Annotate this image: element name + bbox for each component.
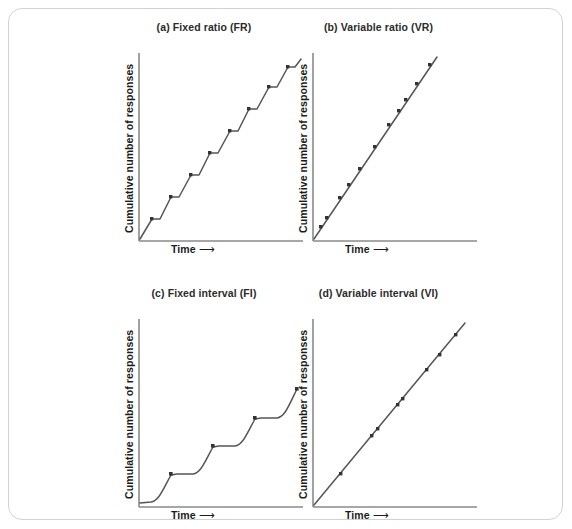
series-variable-interval: [314, 323, 465, 505]
reinforcement-markers-fixed-interval: [169, 387, 299, 476]
panel-variable-interval: (d) Variable interval (VI) Cumulative nu…: [281, 287, 476, 529]
x-axis-label-variable-interval: Time⟶: [345, 509, 388, 521]
x-axis-label-text: Time: [171, 243, 196, 255]
arrow-icon: ⟶: [199, 243, 214, 255]
chart-variable-interval: [305, 317, 480, 517]
panel-title-variable-interval: (d) Variable interval (VI): [281, 287, 476, 299]
arrow-icon: ⟶: [373, 243, 388, 255]
reinforcement-markers-variable-ratio: [319, 63, 431, 228]
panel-title-fixed-ratio: (a) Fixed ratio (FR): [109, 21, 299, 33]
x-axis-label-fixed-interval: Time⟶: [171, 509, 214, 521]
arrow-icon: ⟶: [199, 509, 214, 521]
x-axis-label-text: Time: [171, 509, 196, 521]
series-fixed-ratio: [140, 59, 301, 239]
arrow-icon: ⟶: [373, 509, 388, 521]
plot-area-variable-interval: [305, 317, 480, 517]
plot-area-fixed-interval: [131, 317, 306, 517]
panel-title-fixed-interval: (c) Fixed interval (FI): [109, 287, 299, 299]
chart-fixed-ratio: [131, 51, 306, 251]
chart-fixed-interval: [131, 317, 306, 517]
series-fixed-interval: [140, 389, 297, 503]
figure-frame: (a) Fixed ratio (FR) Cumulative number o…: [8, 8, 563, 520]
x-axis-label-text: Time: [345, 509, 370, 521]
panel-fixed-ratio: (a) Fixed ratio (FR) Cumulative number o…: [109, 21, 299, 266]
panel-variable-ratio: (b) Variable ratio (VR) Cumulative numbe…: [281, 21, 476, 266]
panel-title-variable-ratio: (b) Variable ratio (VR): [281, 21, 476, 33]
chart-variable-ratio: [305, 51, 480, 251]
plot-area-fixed-ratio: [131, 51, 306, 251]
axes-fixed-interval: [139, 319, 303, 507]
x-axis-label-variable-ratio: Time⟶: [345, 243, 388, 255]
panel-fixed-interval: (c) Fixed interval (FI) Cumulative numbe…: [109, 287, 299, 529]
axes-variable-interval: [313, 319, 477, 507]
plot-area-variable-ratio: [305, 51, 480, 251]
x-axis-label-fixed-ratio: Time⟶: [171, 243, 214, 255]
axes-variable-ratio: [313, 53, 477, 241]
reinforcement-markers-fixed-ratio: [150, 65, 289, 220]
x-axis-label-text: Time: [345, 243, 370, 255]
